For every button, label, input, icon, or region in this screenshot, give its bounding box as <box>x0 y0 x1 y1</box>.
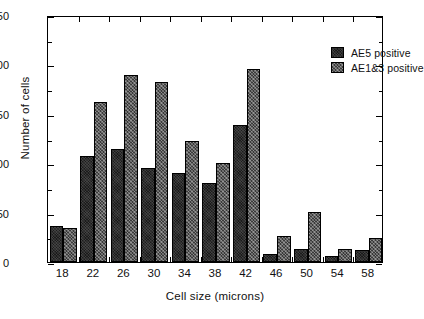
x-tick-top <box>353 17 354 22</box>
y-tick-major <box>48 17 54 18</box>
x-tick-top <box>79 17 80 22</box>
bar-ae5-positive-50 <box>294 249 308 262</box>
x-tick-label: 54 <box>320 267 354 279</box>
legend-item-ae5: AE5 positive <box>331 45 424 60</box>
y-tick-minor-right <box>379 42 383 43</box>
y-tick-minor <box>48 141 52 142</box>
y-axis-title: Number of cells <box>19 38 31 198</box>
y-tick-major <box>48 116 54 117</box>
bar-ae5-positive-54 <box>325 256 339 262</box>
bar-ae1-3-positive-42 <box>247 69 261 262</box>
bar-ae5-positive-30 <box>141 168 155 262</box>
x-tick-label: 18 <box>45 267 79 279</box>
bar-ae1-3-positive-18 <box>63 228 77 262</box>
y-tick-minor-right <box>379 91 383 92</box>
y-tick-major <box>48 215 54 216</box>
bar-ae5-positive-46 <box>263 254 277 262</box>
legend-label-ae5: AE5 positive <box>351 47 411 59</box>
bar-ae5-positive-42 <box>233 125 247 262</box>
x-tick-label: 58 <box>351 267 385 279</box>
y-tick-label: 200 <box>0 59 9 71</box>
y-tick-major-right <box>376 215 382 216</box>
bar-ae1-3-positive-46 <box>277 236 291 262</box>
x-tick-label: 34 <box>167 267 201 279</box>
legend-item-ae13: AE1&3 positive <box>331 60 424 75</box>
bar-ae1-3-positive-58 <box>369 238 383 262</box>
y-tick-minor <box>48 42 52 43</box>
x-tick-top <box>170 17 171 22</box>
x-tick-top <box>292 17 293 22</box>
legend-swatch-ae13 <box>331 62 344 73</box>
bar-ae1-3-positive-34 <box>185 141 199 262</box>
bar-ae5-positive-34 <box>172 173 186 262</box>
y-tick-label: 150 <box>0 109 9 121</box>
y-tick-label: 100 <box>0 158 9 170</box>
chart-legend: AE5 positive AE1&3 positive <box>331 45 424 75</box>
y-tick-label: 50 <box>0 208 9 220</box>
y-tick-major <box>48 165 54 166</box>
y-tick-minor-right <box>379 141 383 142</box>
bar-ae1-3-positive-38 <box>216 163 230 262</box>
bar-ae5-positive-38 <box>202 183 216 262</box>
x-tick-top <box>140 17 141 22</box>
x-tick-label: 38 <box>198 267 232 279</box>
x-tick-label: 46 <box>259 267 293 279</box>
plot-area: AE5 positive AE1&3 positive <box>47 16 383 263</box>
bar-ae1-3-positive-54 <box>338 249 352 262</box>
y-tick-major-right <box>376 264 382 265</box>
bar-ae1-3-positive-26 <box>124 75 138 262</box>
x-tick-top <box>231 17 232 22</box>
y-tick-major <box>48 264 54 265</box>
y-tick-major-right <box>376 116 382 117</box>
bar-ae1-3-positive-30 <box>155 82 169 262</box>
x-tick-label: 22 <box>76 267 110 279</box>
bar-ae5-positive-22 <box>80 156 94 262</box>
y-tick-minor <box>48 91 52 92</box>
y-tick-minor <box>48 190 52 191</box>
x-tick-top <box>262 17 263 22</box>
y-tick-major-right <box>376 17 382 18</box>
x-tick-top <box>109 17 110 22</box>
bar-ae1-3-positive-50 <box>308 212 322 262</box>
y-tick-minor-right <box>379 190 383 191</box>
x-tick-label: 30 <box>137 267 171 279</box>
bar-ae5-positive-58 <box>355 250 369 262</box>
x-axis-title: Cell size (microns) <box>45 290 385 302</box>
y-tick-major-right <box>376 165 382 166</box>
y-tick-major <box>48 66 54 67</box>
bar-ae1-3-positive-22 <box>94 102 108 262</box>
x-tick-label: 50 <box>290 267 324 279</box>
y-tick-label: 0 <box>0 257 9 269</box>
legend-swatch-ae5 <box>331 47 344 58</box>
bar-ae5-positive-18 <box>50 226 64 262</box>
y-tick-label: 250 <box>0 10 9 22</box>
bar-ae5-positive-26 <box>111 149 125 262</box>
x-tick-top <box>201 17 202 22</box>
x-tick-label: 42 <box>229 267 263 279</box>
legend-label-ae13: AE1&3 positive <box>351 62 424 74</box>
x-tick-top <box>323 17 324 22</box>
x-tick-label: 26 <box>106 267 140 279</box>
